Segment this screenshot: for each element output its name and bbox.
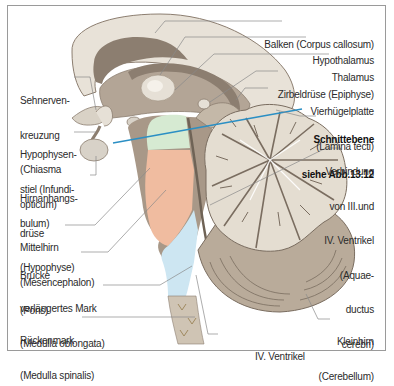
hypophyse-shape [80, 139, 108, 161]
infundibulum-shape [92, 126, 100, 140]
epiphyse-shape [198, 99, 210, 109]
label-ventrikel-iv: IV. Ventrikel [255, 328, 305, 374]
spinal-cord-shape [168, 296, 204, 344]
label-cerebellum: Kleinhirn (Cerebellum) [319, 313, 374, 386]
label-medulla-spinalis: Rückenmark (Medulla spinalis) [20, 312, 94, 386]
